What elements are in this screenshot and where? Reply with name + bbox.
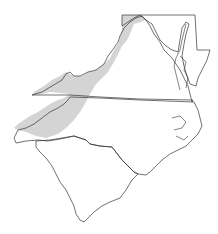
south-carolina-outline xyxy=(36,136,138,222)
pamlico-sound-coastline xyxy=(172,116,188,140)
region-map xyxy=(0,0,218,234)
appalachian-band xyxy=(14,15,146,138)
maryland-delaware-outline xyxy=(122,15,210,86)
